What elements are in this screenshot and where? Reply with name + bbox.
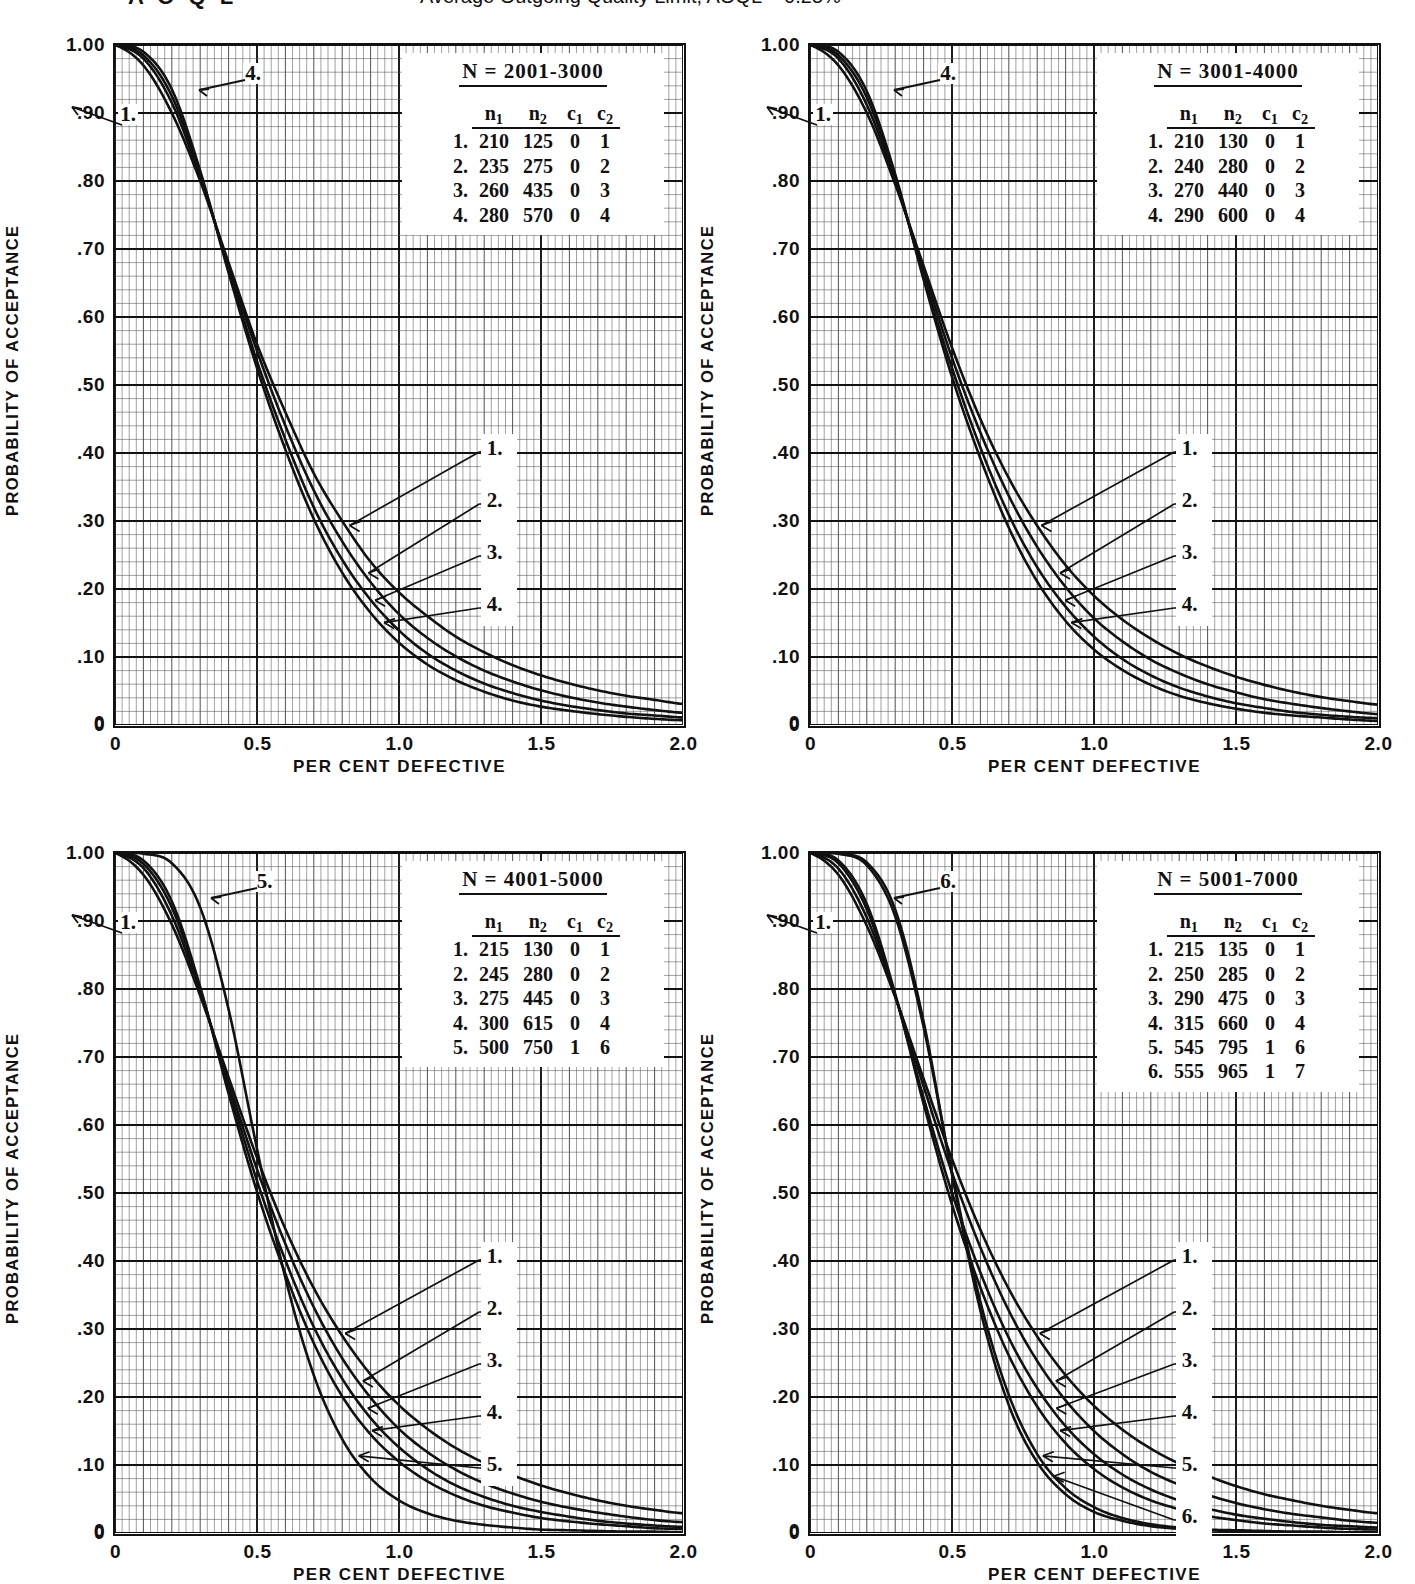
callout-leader-lines (811, 854, 1379, 1534)
callout-label-strip (1176, 1242, 1212, 1538)
y-axis-tick-label: .80 (722, 978, 800, 1000)
x-axis-tick-label: 2.0 (1349, 1541, 1409, 1563)
curve-number-label: 3. (1180, 1350, 1200, 1371)
y-axis-tick-label: .70 (722, 1046, 800, 1068)
x-axis-tick-label: 1.5 (1207, 1541, 1267, 1563)
x-axis-tick-label: 0.5 (923, 1541, 983, 1563)
curve-number-label: 4. (1180, 1402, 1200, 1423)
y-axis-tick-label: .40 (722, 1250, 800, 1272)
curve-number-label: 6. (1180, 1506, 1200, 1527)
x-axis-tick-label: 0 (781, 1541, 841, 1563)
y-axis-tick-label: .60 (722, 1114, 800, 1136)
curve-number-label: 5. (1180, 1454, 1200, 1475)
y-axis-tick-label: .10 (722, 1454, 800, 1476)
y-axis-tick-label: .30 (722, 1318, 800, 1340)
curve-number-label: 2. (1180, 1298, 1200, 1319)
curve-number-label: 1. (1180, 1246, 1200, 1267)
y-axis-title: PROBABILITY OF ACCEPTANCE (698, 1032, 717, 1323)
x-axis-tick-label: 1.0 (1065, 1541, 1125, 1563)
y-axis-tick-label: 1.00 (722, 842, 800, 864)
origin-label: 0 (722, 1520, 800, 1542)
y-axis-tick-label: .20 (722, 1386, 800, 1408)
x-axis-title: PER CENT DEFECTIVE (863, 1565, 1326, 1584)
y-axis-tick-label: .50 (722, 1182, 800, 1204)
